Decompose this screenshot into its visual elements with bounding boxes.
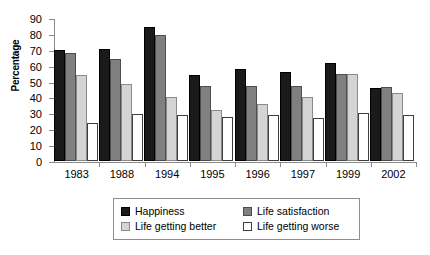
x-axis-tick	[280, 162, 281, 167]
bar	[291, 86, 302, 161]
bar-group	[189, 18, 233, 161]
legend-swatch-icon	[121, 207, 130, 216]
bar-group	[235, 18, 279, 161]
bar	[211, 110, 222, 161]
x-axis-label: 1997	[291, 169, 315, 180]
bar	[235, 69, 246, 161]
bar	[336, 74, 347, 161]
y-axis-tick-label: 0	[12, 157, 42, 168]
bar	[87, 123, 98, 161]
legend-label: Life getting better	[135, 221, 216, 232]
bar	[381, 87, 392, 161]
legend-item: Life getting better	[121, 221, 243, 232]
bar-group	[99, 18, 143, 161]
y-axis-tick-label: 60	[12, 61, 42, 72]
x-axis-label: 1994	[155, 169, 179, 180]
x-axis-tick	[99, 162, 100, 167]
bar	[370, 88, 381, 161]
legend-swatch-icon	[243, 222, 252, 231]
bar-chart: Percentage 0102030405060708090 198319881…	[0, 0, 430, 255]
x-axis-label: 1996	[245, 169, 269, 180]
y-axis-tick-label: 50	[12, 77, 42, 88]
bar	[257, 104, 268, 161]
bar-group	[54, 18, 98, 161]
legend-item: Life getting worse	[243, 221, 361, 232]
bar	[155, 35, 166, 161]
x-axis-tick	[326, 162, 327, 167]
bar-group	[325, 18, 369, 161]
x-axis-label: 1988	[110, 169, 134, 180]
bar	[302, 97, 313, 161]
legend-label: Life getting worse	[257, 221, 339, 232]
bar	[246, 86, 257, 161]
bar	[121, 84, 132, 161]
bar-group	[280, 18, 324, 161]
bar	[144, 27, 155, 161]
x-axis-tick	[235, 162, 236, 167]
bar-group	[144, 18, 188, 161]
bar	[110, 59, 121, 161]
x-axis-tick	[371, 162, 372, 167]
bar	[76, 75, 87, 161]
bar	[189, 75, 200, 161]
bar	[132, 114, 143, 161]
bar	[222, 117, 233, 161]
bar	[313, 118, 324, 161]
bar	[268, 115, 279, 161]
y-axis-tick-label: 70	[12, 45, 42, 56]
bar	[200, 86, 211, 161]
x-axis-tick	[145, 162, 146, 167]
bar	[403, 115, 414, 161]
x-axis-tick	[416, 162, 417, 167]
bar-group	[370, 18, 414, 161]
y-axis-tick-label: 30	[12, 109, 42, 120]
y-axis-tick: 0	[49, 162, 54, 163]
x-axis-tick	[190, 162, 191, 167]
legend-item: Life satisfaction	[243, 206, 361, 217]
y-axis-tick-label: 40	[12, 93, 42, 104]
x-axis-label: 1995	[200, 169, 224, 180]
bar	[99, 49, 110, 161]
x-axis-label: 2002	[381, 169, 405, 180]
bar	[280, 72, 291, 161]
y-axis-tick-label: 80	[12, 29, 42, 40]
chart-legend: HappinessLife satisfactionLife getting b…	[113, 198, 360, 240]
y-axis-tick-label: 90	[12, 14, 42, 25]
bar	[65, 53, 76, 161]
bar	[358, 113, 369, 161]
bar	[347, 74, 358, 161]
legend-item: Happiness	[121, 206, 243, 217]
x-axis-label: 1999	[336, 169, 360, 180]
bar	[325, 63, 336, 162]
bar	[54, 50, 65, 161]
y-axis-tick-label: 20	[12, 125, 42, 136]
bar	[177, 115, 188, 161]
bar	[392, 93, 403, 161]
bar	[166, 97, 177, 161]
legend-label: Happiness	[135, 206, 185, 217]
legend-label: Life satisfaction	[257, 206, 329, 217]
legend-swatch-icon	[121, 222, 130, 231]
x-axis-label: 1983	[64, 169, 88, 180]
y-axis-tick-label: 10	[12, 141, 42, 152]
legend-swatch-icon	[243, 207, 252, 216]
plot-area: 0102030405060708090 19831988199419951996…	[54, 19, 416, 162]
